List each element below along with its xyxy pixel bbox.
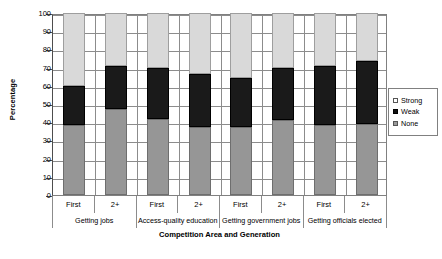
bar-segment-strong: [230, 13, 252, 78]
y-axis-tick-label: 70: [23, 65, 51, 73]
x-axis-category-label: 2+: [95, 196, 137, 213]
bar-segment-strong: [356, 13, 378, 61]
bar-segment-none: [189, 127, 211, 195]
bar-segment-strong: [189, 13, 211, 74]
legend-swatch-none-icon: [393, 121, 398, 126]
x-axis-group-labels: Getting jobsAccess-quality educationGett…: [52, 213, 387, 228]
x-axis-category-label: First: [53, 196, 95, 213]
x-axis-category-label: First: [137, 196, 179, 213]
bar: [314, 13, 336, 195]
bar: [272, 13, 294, 195]
bar-segment-none: [230, 127, 252, 195]
legend-item: Weak: [393, 107, 434, 116]
bar-segment-none: [314, 125, 336, 195]
bar-segment-strong: [63, 13, 85, 86]
bar-segment-strong: [314, 13, 336, 66]
bar-segment-strong: [105, 13, 127, 66]
x-axis-category-label: 2+: [178, 196, 220, 213]
bar-segment-weak: [105, 66, 127, 109]
y-axis-tick-label: 60: [23, 83, 51, 91]
bar-segment-none: [105, 109, 127, 195]
legend-item: None: [393, 119, 434, 128]
bar-segment-weak: [230, 78, 252, 127]
legend-swatch-weak-icon: [393, 109, 398, 114]
bar-segment-weak: [189, 74, 211, 127]
y-axis-tick-label: 30: [23, 137, 51, 145]
x-axis-group-label: Getting government jobs: [220, 213, 304, 228]
y-axis-tick-label: 80: [23, 46, 51, 54]
y-axis-tick-label: 40: [23, 119, 51, 127]
legend-item: Strong: [393, 96, 434, 105]
y-axis-tick-label: 20: [23, 156, 51, 164]
x-axis-category-label: 2+: [345, 196, 387, 213]
bar-segment-strong: [147, 13, 169, 68]
bar-segment-weak: [356, 61, 378, 124]
legend: StrongWeakNone: [388, 88, 438, 136]
bar: [63, 13, 85, 195]
y-axis-title: Percentage: [8, 62, 17, 138]
bars-layer: [53, 15, 386, 195]
legend-swatch-strong-icon: [393, 98, 398, 103]
bar-segment-weak: [272, 68, 294, 121]
bar: [105, 13, 127, 195]
bar-segment-strong: [272, 13, 294, 68]
y-axis-tick-label: 10: [23, 174, 51, 182]
x-axis-category-label: First: [304, 196, 346, 213]
x-axis-group-label: Getting jobs: [53, 213, 137, 228]
bar-segment-weak: [147, 68, 169, 119]
x-axis-category-labels: First2+First2+First2+First2+: [52, 196, 387, 213]
bar-segment-none: [356, 124, 378, 195]
y-axis-tick-label: 0: [23, 192, 51, 200]
bar-segment-weak: [314, 66, 336, 125]
y-axis-tick-label: 90: [23, 28, 51, 36]
bar: [356, 13, 378, 195]
bar: [189, 13, 211, 195]
y-axis-tick-label: 100: [23, 10, 51, 18]
bar: [230, 13, 252, 195]
x-axis-title: Competition Area and Generation: [52, 230, 387, 239]
bar: [147, 13, 169, 195]
x-axis-category-label: First: [220, 196, 262, 213]
legend-label: Strong: [401, 96, 422, 105]
bar-segment-none: [147, 119, 169, 195]
y-axis-tick-label: 50: [23, 101, 51, 109]
plot-area: [52, 14, 387, 196]
legend-label: None: [401, 119, 418, 128]
x-axis-group-label: Getting officials elected: [304, 213, 388, 228]
bar-segment-none: [272, 120, 294, 195]
bar-segment-weak: [63, 86, 85, 125]
legend-label: Weak: [401, 107, 419, 116]
x-axis-category-label: 2+: [262, 196, 304, 213]
bar-segment-none: [63, 125, 85, 195]
x-axis-group-label: Access-quality education: [137, 213, 221, 228]
stacked-bar-chart: Percentage 0102030405060708090100 First2…: [0, 0, 442, 259]
